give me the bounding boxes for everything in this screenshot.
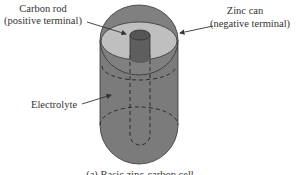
carbon-rod-label: Carbon rod (19, 3, 67, 14)
figure-caption: (a) Basic zinc-carbon cell (86, 169, 194, 175)
zinc-can (100, 5, 178, 164)
zinc-can-arrow (180, 26, 213, 33)
carbon-rod (130, 30, 150, 63)
zinc-can-sublabel: (negative terminal) (210, 18, 291, 30)
electrolyte-label: Electrolyte (31, 99, 77, 110)
zinc-carbon-cell-diagram: Carbon rod (positive terminal) Zinc can … (0, 0, 302, 175)
zinc-can-label: Zinc can (227, 5, 264, 16)
carbon-rod-sublabel: (positive terminal) (4, 15, 82, 27)
